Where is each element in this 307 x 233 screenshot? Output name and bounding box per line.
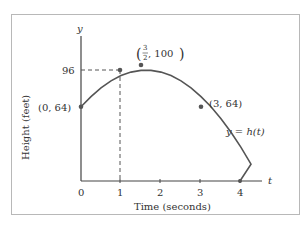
y-axis-var: y <box>76 23 83 34</box>
point-t3 <box>199 105 204 110</box>
vertex-numerator: 3 <box>143 44 147 52</box>
t-axis-var: t <box>268 175 273 186</box>
point-vertex <box>139 63 144 68</box>
x-tick-0: 0 <box>78 187 84 198</box>
curve-label: y = h(t) <box>225 126 265 137</box>
x-axis-title: Time (seconds) <box>134 201 211 212</box>
vertex-rest: , 100 <box>148 48 173 59</box>
x-tick-3: 3 <box>197 187 203 198</box>
y-axis-title: Height (feet) <box>20 95 31 160</box>
label-point-vertex: ( 3 2 , 100 ) <box>136 44 184 62</box>
label-point-3: (3, 64) <box>209 98 242 109</box>
svg-text:): ) <box>179 46 184 62</box>
x-tick-1: 1 <box>117 187 123 198</box>
y-tick-96: 96 <box>62 65 75 76</box>
x-tick-4: 4 <box>237 187 243 198</box>
vertex-denominator: 2 <box>143 54 147 62</box>
x-tick-2: 2 <box>157 187 163 198</box>
point-t1 <box>118 68 123 73</box>
label-point-start: (0, 64) <box>38 102 71 113</box>
point-t4 <box>238 179 242 183</box>
height-vs-time-chart: y t 96 0 1 2 3 4 (0, 64) ( 3 2 , 100 ) (… <box>0 0 307 233</box>
point-start <box>79 105 84 110</box>
svg-text:(: ( <box>136 46 141 62</box>
